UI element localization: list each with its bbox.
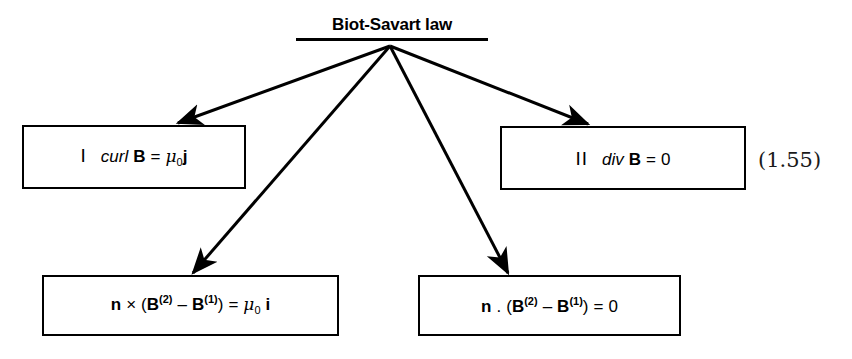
roman-numeral-i: I: [81, 145, 87, 166]
superscript-region1: (1): [569, 295, 582, 307]
paren-close: ): [583, 297, 589, 316]
equation-div: IIdivB=0: [576, 149, 671, 168]
equals-sign: =: [228, 295, 238, 314]
operator-curl: curl: [101, 147, 128, 166]
diagram-title-text: Biot-Savart law: [296, 14, 488, 35]
paren-close: ): [218, 295, 224, 314]
normal-vector-n: n: [111, 295, 121, 314]
cross-product-symbol: ×: [126, 295, 136, 314]
value-zero: 0: [608, 297, 617, 316]
superscript-region2: (2): [524, 295, 537, 307]
minus-sign: –: [178, 295, 187, 314]
surface-current-i: i: [266, 295, 271, 314]
field-b: B: [629, 150, 641, 169]
value-zero: 0: [661, 150, 670, 169]
mu-subscript: 0: [254, 305, 260, 317]
equation-dot: n.(B(2)–B(1))=0: [481, 296, 618, 315]
current-density-j: j: [183, 147, 188, 166]
superscript-region2: (2): [159, 293, 172, 305]
equation-box-cross-product: n×(B(2)–B(1))=μ0i: [42, 275, 339, 336]
biot-savart-diagram: Biot-Savart law IcurlB=μ0j IIdivB=0 n×(B…: [0, 0, 852, 359]
field-b-region2: B: [147, 295, 159, 314]
field-b-region1: B: [557, 297, 569, 316]
equation-box-curl: IcurlB=μ0j: [22, 125, 246, 189]
equals-sign: =: [151, 147, 161, 166]
equation-curl: IcurlB=μ0j: [81, 146, 188, 168]
equals-sign: =: [594, 297, 604, 316]
operator-div: div: [602, 150, 624, 169]
minus-sign: –: [543, 297, 552, 316]
equation-number: (1.55): [758, 148, 821, 172]
arrow-to-div: [390, 46, 588, 124]
equation-box-dot-product: n.(B(2)–B(1))=0: [418, 275, 681, 336]
normal-vector-n: n: [481, 297, 491, 316]
equation-box-div: IIdivB=0: [500, 126, 746, 190]
diagram-title: Biot-Savart law: [296, 14, 488, 41]
arrow-to-dot: [390, 46, 508, 273]
mu-symbol: μ: [165, 146, 176, 166]
roman-numeral-ii: II: [576, 148, 589, 169]
title-underline: [296, 38, 488, 41]
mu-symbol: μ: [243, 294, 254, 314]
field-b-region1: B: [192, 295, 204, 314]
dot-product-symbol: .: [496, 297, 501, 316]
field-b: B: [133, 147, 145, 166]
equation-cross: n×(B(2)–B(1))=μ0i: [111, 294, 270, 316]
equals-sign: =: [646, 150, 656, 169]
superscript-region1: (1): [204, 293, 217, 305]
field-b-region2: B: [512, 297, 524, 316]
